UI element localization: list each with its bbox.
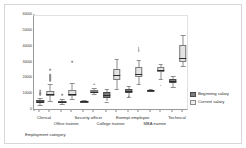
y-tick-label: 60000 (23, 13, 33, 17)
boxplot-figure: 0100002000030000400005000060000 Clerical… (0, 0, 246, 148)
legend-swatch (190, 100, 196, 105)
y-tick-label: 50000 (23, 29, 33, 33)
x-tick-mark (83, 110, 84, 112)
whisker-cap-lower (181, 66, 186, 67)
y-tick-label: 20000 (23, 77, 33, 81)
y-axis: 0100002000030000400005000060000 (0, 15, 33, 110)
legend-swatch (190, 92, 196, 97)
legend-item: Beginning salary (190, 92, 242, 97)
legend-label: Current salary (198, 100, 224, 104)
category-label: Office trainee (54, 122, 79, 126)
boxplot-box (34, 16, 187, 109)
x-tick-mark (93, 110, 94, 112)
x-axis-category-labels: ClericalOffice traineeSecurity officerCo… (0, 116, 246, 132)
x-tick-mark (115, 110, 116, 112)
median-line (179, 58, 187, 59)
x-tick-mark (105, 110, 106, 112)
x-axis-title: Employment category (25, 133, 66, 137)
legend-label: Beginning salary (198, 92, 229, 96)
y-tick-label: 0 (30, 108, 32, 112)
box-rect (179, 45, 187, 62)
y-tick-label: 40000 (23, 45, 33, 49)
legend-item: Current salary (190, 100, 242, 105)
x-tick-mark (127, 110, 128, 112)
plot-area (33, 15, 188, 110)
category-label: College trainee (96, 122, 124, 126)
whisker-cap-upper (181, 35, 186, 36)
y-tick-label: 10000 (23, 92, 33, 96)
x-tick-mark (71, 110, 72, 112)
x-tick-mark (137, 110, 138, 112)
x-tick-mark (149, 110, 150, 112)
x-tick-mark (39, 110, 40, 112)
x-tick-mark (171, 110, 172, 112)
category-label: MBA trainee (143, 122, 166, 126)
x-tick-mark (181, 110, 182, 112)
x-tick-mark (159, 110, 160, 112)
category-label: Clerical (37, 116, 51, 120)
x-tick-mark (61, 110, 62, 112)
legend: Beginning salaryCurrent salary (190, 92, 242, 108)
whisker-upper (182, 35, 183, 45)
y-tick-label: 30000 (23, 61, 33, 65)
x-tick-mark (49, 110, 50, 112)
category-label: Technical (168, 116, 185, 120)
